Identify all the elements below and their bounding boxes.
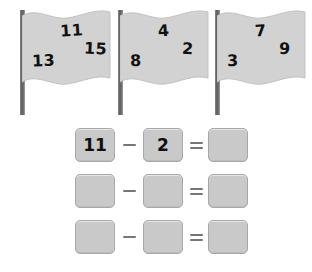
difference-box[interactable] [208, 128, 248, 162]
minus-operator-icon [117, 174, 141, 208]
flag-number: 3 [227, 53, 239, 69]
flag-number: 9 [279, 41, 291, 58]
flag-number: 8 [130, 53, 142, 69]
minuend-box[interactable] [75, 174, 115, 208]
flag-number: 2 [182, 41, 194, 58]
equals-glyph [190, 188, 203, 195]
flag-one-numbers: 11 15 13 [22, 10, 112, 96]
equations-section: 11 2 [0, 122, 312, 272]
equals-operator-icon [185, 174, 207, 208]
flag-two-numbers: 4 2 8 [120, 10, 210, 96]
equals-glyph [190, 234, 203, 241]
minus-operator-icon [117, 220, 141, 254]
subtrahend-box[interactable] [143, 220, 183, 254]
flag-two: 4 2 8 [112, 0, 212, 118]
equals-operator-icon [185, 220, 207, 254]
equation-row [0, 174, 312, 214]
subtrahend-box[interactable] [143, 174, 183, 208]
flag-number: 11 [59, 22, 83, 40]
flag-number: 4 [157, 23, 170, 40]
minus-operator-icon [117, 128, 141, 162]
flag-number: 7 [254, 23, 267, 40]
minuend-box[interactable]: 11 [75, 128, 115, 162]
equals-glyph [190, 142, 203, 149]
equation-row: 11 2 [0, 128, 312, 168]
minus-glyph [123, 236, 136, 238]
subtrahend-box[interactable]: 2 [143, 128, 183, 162]
equals-operator-icon [185, 128, 207, 162]
flag-number: 13 [32, 53, 56, 70]
equation-row [0, 220, 312, 260]
minus-glyph [123, 190, 136, 192]
difference-box[interactable] [208, 220, 248, 254]
minuend-box[interactable] [75, 220, 115, 254]
flag-one: 11 15 13 [14, 0, 114, 118]
flag-number: 15 [84, 40, 108, 57]
flags-row: 11 15 13 4 2 8 7 9 3 [0, 0, 312, 118]
difference-box[interactable] [208, 174, 248, 208]
flag-three-numbers: 7 9 3 [217, 10, 307, 96]
flag-three: 7 9 3 [209, 0, 309, 118]
minus-glyph [123, 144, 136, 146]
